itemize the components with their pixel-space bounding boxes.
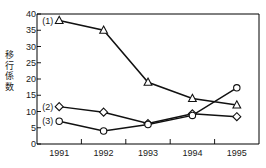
- data-point-diamond: [55, 103, 63, 111]
- data-point-triangle: [55, 16, 63, 23]
- data-point-circle: [145, 121, 151, 127]
- data-point-diamond: [233, 113, 241, 121]
- plot-area: [0, 0, 266, 168]
- data-point-diamond: [100, 108, 108, 116]
- data-point-circle: [56, 118, 62, 124]
- series-line-1: [59, 21, 237, 106]
- line-chart: 移行係数 0510152025303540 199119921993199419…: [0, 0, 266, 168]
- data-point-circle: [234, 85, 240, 91]
- data-point-circle: [100, 128, 106, 134]
- data-point-circle: [189, 112, 195, 118]
